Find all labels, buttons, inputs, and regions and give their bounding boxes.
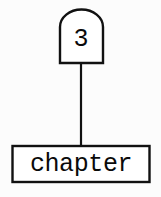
chapter-diagram: 3 chapter xyxy=(0,0,161,197)
chapter-name-label: chapter xyxy=(12,152,150,177)
chapter-number-label: 3 xyxy=(59,27,103,52)
